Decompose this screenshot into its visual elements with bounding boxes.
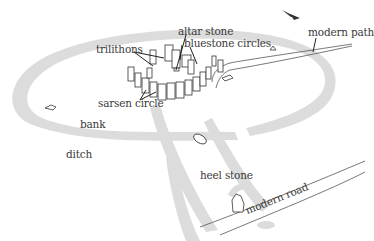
north-arrow-icon (282, 10, 300, 20)
label-altar-stone: altar stone (178, 26, 233, 37)
label-bank: bank (80, 119, 105, 130)
label-heel-stone: heel stone (200, 170, 253, 181)
label-trilithons: trilithons (96, 44, 143, 55)
heel-stone (232, 194, 244, 212)
label-ditch: ditch (66, 149, 92, 160)
road-patch (257, 221, 275, 229)
small-stone-left (45, 105, 56, 110)
label-modern-path: modern path (308, 27, 374, 38)
label-bluestone-circles: bluestone circles (184, 38, 271, 49)
label-sarsen-circle: sarsen circle (98, 98, 163, 109)
